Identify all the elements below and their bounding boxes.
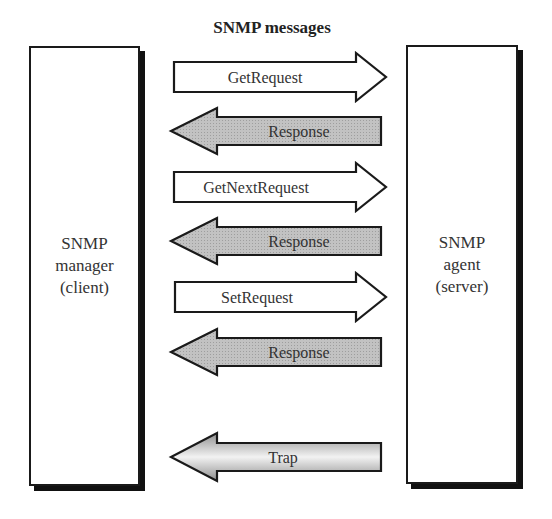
message-label: Response [268,233,329,251]
messages-layer: GetRequest Response GetNextRequest Respo… [0,0,552,519]
message-label: GetNextRequest [203,179,309,197]
message-arrow-trap: Trap [171,433,381,481]
message-label: GetRequest [228,69,303,87]
message-arrow-setrequest: SetRequest [175,273,386,321]
message-arrow-getrequest: GetRequest [174,53,386,101]
message-label: Response [268,344,329,362]
message-arrow-getnextrequest: GetNextRequest [174,163,386,211]
message-arrow-response-2: Response [171,218,381,264]
message-label: SetRequest [221,289,294,307]
message-arrow-response-1: Response [171,108,381,154]
message-arrow-response-3: Response [171,329,381,375]
message-label: Trap [268,449,298,467]
message-label: Response [268,123,329,141]
